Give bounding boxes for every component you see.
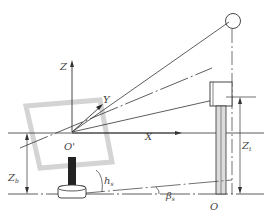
solar-geometry-diagram: Z Y X O' O Zb Zt hs βs [0,0,264,221]
ray-to-obstacle [72,99,218,132]
beta-arc [156,187,159,194]
hs-arc [96,170,102,192]
beta-label: βs [165,190,175,202]
hs-label: hs [104,175,114,187]
origin-prime-label: O' [64,141,75,152]
shadow-dashdot [75,180,232,194]
z-axis-label: Z [59,61,68,72]
ray-dashdot [20,68,212,148]
zb-label: Zb [7,172,19,184]
x-arrow-icon [175,131,182,135]
x-axis-label: X [144,131,153,142]
support-post [68,157,76,185]
sun-icon [226,14,241,29]
z-arrow-icon [70,60,74,67]
zt-label: Zt [241,140,252,152]
origin-label: O [210,201,218,212]
y-axis-label: Y [103,94,111,105]
sun-ray [72,22,229,132]
y-axis [72,107,100,132]
